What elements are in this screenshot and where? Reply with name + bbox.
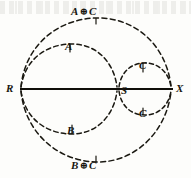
label-point-r: R	[6, 83, 14, 94]
label-point-x: X	[176, 83, 184, 94]
diagram-canvas	[0, 0, 191, 178]
label-point-s: S	[121, 85, 127, 96]
label-a-plus-c-right: C	[89, 5, 97, 17]
label-curve-b: B	[67, 125, 75, 136]
oplus-icon: ⊕	[79, 6, 89, 17]
curve-outer-upper	[21, 18, 171, 87]
label-b-plus-c-left: B	[71, 159, 79, 171]
label-curve-a: A	[65, 41, 73, 52]
label-a-plus-c-left: A	[71, 5, 79, 17]
label-b-plus-c: B⊕C	[71, 160, 97, 171]
figure-container: A⊕C B⊕C A B C C R S X	[0, 0, 191, 178]
label-b-plus-c-right: C	[89, 159, 97, 171]
oplus-icon: ⊕	[79, 160, 89, 171]
label-curve-c-upper: C	[139, 60, 147, 71]
label-a-plus-c: A⊕C	[71, 6, 97, 17]
label-curve-c-lower: C	[139, 108, 147, 119]
